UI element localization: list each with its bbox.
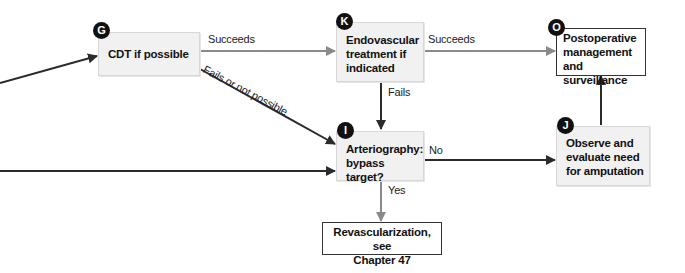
edge-label-k-i: Fails: [388, 86, 410, 98]
badge-i: I: [337, 122, 354, 139]
node-j-line-2: evaluate need: [566, 150, 639, 164]
badge-k: K: [336, 13, 353, 30]
badge-j: J: [557, 117, 574, 134]
node-k-line-1: Endovascular: [346, 33, 419, 47]
edge-label-i-revasc: Yes: [388, 184, 405, 196]
node-j-line-3: for amputation: [566, 164, 644, 178]
flowchart: Succeeds Fails or not possible Succeeds …: [0, 0, 685, 273]
node-o-line-2: management: [563, 45, 632, 59]
node-i-line-2: bypass target?: [346, 156, 423, 184]
edge-label-k-o: Succeeds: [428, 33, 475, 45]
node-o-line-1: Postoperative: [563, 31, 636, 45]
node-k-line-3: indicated: [346, 61, 395, 75]
node-revascularization: Revascularization, see Chapter 47: [322, 222, 442, 255]
node-k-line-2: treatment if: [346, 47, 406, 61]
badge-g: G: [93, 22, 110, 39]
edge-label-i-j: No: [429, 144, 443, 156]
edge-label-g-k: Succeeds: [208, 33, 255, 45]
node-j-line-1: Observe and: [566, 136, 633, 150]
node-r-line-2: Chapter 47: [323, 253, 441, 267]
node-g-label: CDT if possible: [108, 47, 189, 61]
node-g-cdt: CDT if possible: [98, 32, 200, 76]
node-k-endovascular: Endovascular treatment if indicated: [336, 22, 424, 82]
node-r-line-1: Revascularization, see: [323, 225, 441, 253]
edge-incoming-to-g: [0, 56, 97, 83]
badge-o: O: [548, 19, 565, 36]
node-i-arteriography: Arteriography: bypass target?: [336, 131, 424, 181]
node-o-postoperative: Postoperative management and surveillanc…: [556, 28, 646, 76]
node-o-line-3: and surveillance: [563, 59, 645, 87]
node-i-line-1: Arteriography:: [346, 142, 423, 156]
node-j-observe: Observe and evaluate need for amputation: [556, 126, 650, 186]
